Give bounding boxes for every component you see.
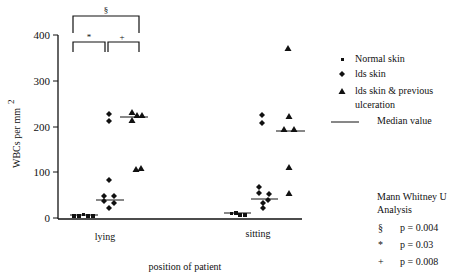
y-tick-label: 300 bbox=[34, 75, 51, 87]
x-category-sitting: sitting bbox=[245, 228, 270, 239]
series-ulceration-lying bbox=[129, 109, 146, 172]
y-tick-label: 100 bbox=[34, 166, 51, 178]
stats-symbol: * bbox=[378, 239, 383, 250]
x-category-lying: lying bbox=[95, 231, 116, 242]
significance-brackets bbox=[73, 16, 139, 52]
legend-normal-skin: Normal skin bbox=[355, 53, 405, 64]
legend-lds-skin: lds skin bbox=[355, 68, 386, 79]
y-tick-label: 200 bbox=[34, 121, 51, 133]
legend-square-icon bbox=[341, 58, 344, 61]
series-normal-sitting bbox=[230, 211, 247, 217]
legend-ulceration-line1: lds skin & previous bbox=[355, 85, 433, 96]
legend-median-value: Median value bbox=[377, 115, 432, 126]
bracket-symbol-star: * bbox=[87, 32, 92, 42]
legend-triangle-icon bbox=[339, 88, 346, 94]
legend-diamond-icon bbox=[339, 71, 345, 77]
bracket-symbol-plus: + bbox=[119, 32, 124, 42]
stats-title-line2: Analysis bbox=[377, 204, 412, 215]
series-lds-lying bbox=[101, 111, 117, 211]
stats-pvalue: p = 0.004 bbox=[400, 222, 438, 233]
stats-pvalue: p = 0.03 bbox=[400, 239, 433, 250]
y-tick-label: 400 bbox=[34, 29, 51, 41]
stats-symbol: § bbox=[378, 222, 383, 233]
y-tick-label: 0 bbox=[45, 212, 51, 224]
stats-title-line1: Mann Whitney U bbox=[377, 191, 448, 202]
stats-symbol: + bbox=[378, 256, 384, 267]
series-ulceration-sitting bbox=[281, 45, 298, 196]
bracket-symbol-section: § bbox=[104, 5, 109, 15]
y-axis-label: WBCs per mm bbox=[11, 108, 22, 168]
legend-ulceration-line2: ulceration bbox=[355, 99, 395, 110]
y-ticks bbox=[53, 35, 58, 218]
y-axis-label-superscript: 2 bbox=[6, 100, 16, 105]
x-axis-label: position of patient bbox=[149, 261, 222, 272]
series-lds-sitting bbox=[256, 112, 272, 211]
chart-figure: 0 100 200 300 400 WBCs per mm 2 lying si… bbox=[0, 0, 456, 279]
stats-pvalue: p = 0.008 bbox=[400, 256, 438, 267]
